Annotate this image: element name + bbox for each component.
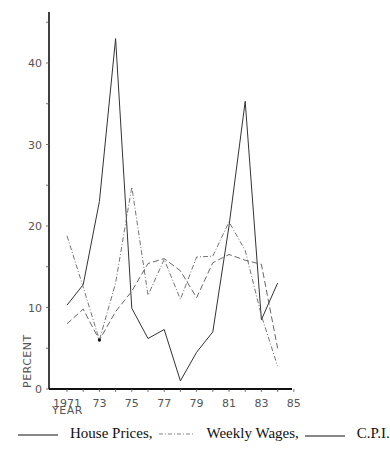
convergence-marker bbox=[98, 339, 101, 342]
y-tick-label: 40 bbox=[28, 57, 42, 70]
legend-swatch-weekly-wages bbox=[159, 425, 199, 442]
x-tick-label: 83 bbox=[254, 397, 268, 410]
x-axis-label: YEAR bbox=[51, 404, 83, 417]
data-lines bbox=[67, 39, 278, 381]
x-tick-label: 81 bbox=[222, 397, 236, 410]
line-chart: 010203040197173757779818385 PERCENT YEAR bbox=[0, 0, 378, 420]
legend-label-cpi: C.P.I. bbox=[357, 425, 390, 442]
x-tick-label: 75 bbox=[125, 397, 139, 410]
x-tick-label: 77 bbox=[157, 397, 171, 410]
x-tick-label: 85 bbox=[287, 397, 301, 410]
y-axis-label: PERCENT bbox=[21, 334, 34, 388]
legend-swatch-house-prices bbox=[18, 425, 62, 442]
legend: House Prices, Weekly Wages, C.P.I. bbox=[18, 425, 378, 442]
series-house-prices bbox=[67, 39, 278, 381]
legend-swatch-cpi bbox=[305, 425, 349, 442]
x-tick-label: 73 bbox=[92, 397, 106, 410]
x-tick-label: 79 bbox=[190, 397, 204, 410]
y-tick-label: 10 bbox=[28, 302, 42, 315]
axes: 010203040197173757779818385 bbox=[28, 12, 301, 410]
y-tick-label: 0 bbox=[35, 383, 42, 396]
legend-label-weekly-wages: Weekly Wages, bbox=[207, 425, 299, 442]
legend-label-house-prices: House Prices, bbox=[70, 425, 153, 442]
y-tick-label: 30 bbox=[28, 139, 42, 152]
series-c-p-i bbox=[67, 255, 278, 349]
y-tick-label: 20 bbox=[28, 220, 42, 233]
